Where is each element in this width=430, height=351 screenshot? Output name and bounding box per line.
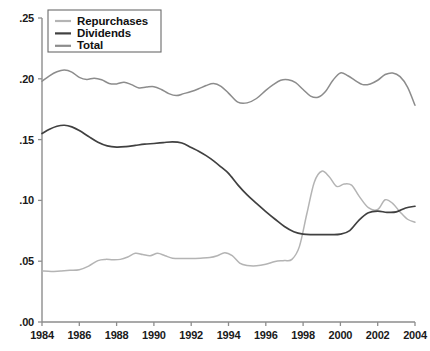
series-line-repurchases [42,171,415,271]
legend-label-repurchases: Repurchases [77,15,148,27]
y-tick-label: .15 [19,134,34,146]
y-tick-label: .25 [19,12,34,24]
series-line-dividends [42,125,415,234]
x-tick-label: 2000 [329,329,353,341]
y-tick-label: .05 [19,255,34,267]
chart-legend: RepurchasesDividendsTotal [48,10,161,52]
series-line-total [42,70,415,105]
legend-label-dividends: Dividends [77,27,131,39]
data-series-group [42,70,415,272]
chart-container: .00.05.10.15.20.25 198419861988199019921… [0,0,430,351]
x-tick-label: 1998 [291,329,315,341]
line-chart: .00.05.10.15.20.25 198419861988199019921… [0,0,430,351]
x-tick-label: 1992 [179,329,203,341]
x-tick-label: 1996 [254,329,278,341]
y-tick-label: .00 [19,316,34,328]
x-tick-label: 2002 [366,329,390,341]
y-axis-ticks: .00.05.10.15.20.25 [19,12,42,328]
x-tick-label: 2004 [403,329,428,341]
x-tick-label: 1984 [30,329,55,341]
y-tick-label: .10 [19,194,34,206]
x-tick-label: 1988 [105,329,129,341]
y-tick-label: .20 [19,73,34,85]
x-axis-ticks: 1984198619881990199219941996199820002002… [30,322,428,341]
x-tick-label: 1990 [142,329,166,341]
legend-label-total: Total [77,39,103,51]
x-tick-label: 1986 [67,329,91,341]
x-tick-label: 1994 [217,329,242,341]
